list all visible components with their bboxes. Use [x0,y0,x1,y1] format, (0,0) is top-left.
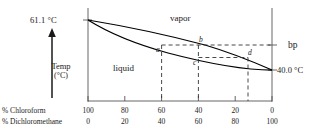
y-axis-unit-label: (°C) [41,72,81,80]
bottom-axis-ticks [88,96,272,101]
x-axis-name-chloroform: % Chloroform [2,106,46,115]
liquid-region-label: liquid [113,64,134,73]
point-label-a: a [156,45,160,54]
tick-dichloromethane-4: 80 [225,117,245,126]
tick-chloroform-4: 20 [225,106,245,115]
vapor-region-label: vapor [170,14,191,23]
phase-diagram-figure: 61.1 °C 40.0 °C bp vapor liquid Temp (°C… [0,0,313,132]
tick-chloroform-2: 60 [152,106,172,115]
tick-dichloromethane-0: 0 [78,117,98,126]
tick-dichloromethane-1: 20 [115,117,135,126]
tick-chloroform-0: 100 [78,106,98,115]
x-axis-name-dichloromethane: % Dichloromethane [2,117,62,126]
tick-chloroform-1: 80 [115,106,135,115]
point-label-c: c [193,58,196,67]
tick-dichloromethane-2: 40 [152,117,172,126]
tick-dichloromethane-5: 100 [262,117,282,126]
bp-label: bp [288,41,298,51]
y-axis-label: Temp [41,62,81,71]
right-temperature-label: 40.0 °C [277,66,303,75]
tick-chloroform-3: 40 [188,106,208,115]
tick-dichloromethane-3: 60 [188,117,208,126]
point-label-b: b [199,35,203,44]
left-temperature-label: 61.1 °C [30,16,57,25]
point-label-d: d [248,48,252,57]
tick-chloroform-5: 0 [262,106,282,115]
